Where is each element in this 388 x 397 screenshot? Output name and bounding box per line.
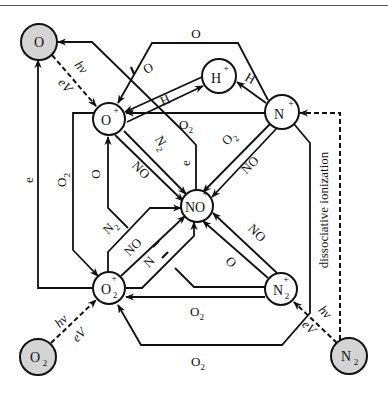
edge-np-op-o: [118, 43, 268, 103]
svg-text:2: 2: [113, 290, 118, 300]
node-o-plus: O +: [93, 103, 125, 135]
crossing-tick: [131, 67, 134, 74]
node-o: O: [21, 24, 57, 60]
svg-text:O: O: [101, 113, 111, 128]
node-n2-plus: N 2 +: [265, 273, 297, 305]
svg-text:2: 2: [285, 291, 290, 301]
node-h-plus: H +: [202, 59, 236, 93]
reaction-network-diagram: O O H H O2 N2 NO e O2 NO e O2 O N2 NO N …: [0, 0, 388, 397]
label-e-nop: e: [178, 160, 193, 166]
svg-text:+: +: [111, 273, 117, 284]
label-no-o2p-nop: NO: [121, 235, 145, 259]
label-ev-n2: eV: [299, 317, 321, 339]
label-no-np-nop: NO: [238, 153, 262, 177]
svg-text:O2: O2: [191, 354, 205, 372]
svg-text:2: 2: [354, 357, 359, 367]
label-o2-op-o2p: O2: [54, 173, 72, 187]
label-o2-np-o2p-bottom: O2: [191, 354, 205, 372]
label-o-hp: O: [141, 59, 156, 77]
label-o-o2p-op: O: [88, 169, 103, 178]
label-o2-np-nop: O2: [219, 128, 242, 151]
label-o2-np-op: O2: [179, 117, 193, 135]
svg-text:O: O: [34, 35, 44, 50]
svg-text:O: O: [30, 350, 40, 365]
label-ev-o2: eV: [69, 323, 91, 345]
svg-text:N: N: [341, 349, 351, 364]
svg-text:+: +: [223, 63, 229, 74]
svg-text:O2: O2: [179, 117, 193, 135]
edge-o2p-nop-n: [126, 222, 194, 288]
node-n2: N 2: [331, 338, 367, 374]
edge-n2p-nop-no: [213, 213, 277, 273]
label-e-o2p-o: e: [21, 177, 36, 183]
edge-op-o2p-o2: [73, 113, 98, 276]
label-o-n2p-nop: O: [223, 253, 240, 270]
edge-o2p-op-o: [108, 137, 128, 228]
edge-o-op-hv: [52, 55, 96, 106]
label-o2-n2p-o2p: O2: [190, 304, 204, 322]
node-o2-plus: O 2 +: [93, 272, 125, 304]
svg-text:+: +: [283, 274, 289, 285]
label-no-op-nop: NO: [129, 158, 153, 182]
svg-text:O: O: [101, 282, 111, 297]
label-hv-n2: hν: [316, 302, 335, 321]
edge-n2p-nop-o-path: [175, 268, 266, 287]
svg-text:2: 2: [43, 358, 48, 368]
svg-text:O2: O2: [190, 304, 204, 322]
svg-text:NO: NO: [185, 200, 205, 215]
label-no-n2p-nop: NO: [245, 221, 269, 245]
svg-text:N2: N2: [149, 133, 172, 154]
label-hv-o: hν: [72, 58, 92, 77]
svg-text:O2: O2: [54, 173, 72, 187]
svg-text:+: +: [113, 105, 119, 116]
edge-np-nop-o2: [203, 124, 270, 192]
svg-text:+: +: [202, 188, 208, 199]
label-dissociative-ionization: dissociative ionization: [316, 151, 331, 268]
label-o-top: O: [191, 26, 200, 41]
svg-text:+: +: [288, 98, 294, 109]
svg-text:O2: O2: [219, 128, 242, 151]
label-ev-o: eV: [55, 75, 77, 97]
node-n-plus: N +: [265, 95, 299, 129]
svg-text:H: H: [211, 71, 221, 86]
edge-np-o2p-o2: [118, 124, 310, 345]
crossing-tick: [162, 252, 168, 258]
node-o2: O 2: [20, 339, 56, 375]
label-hv-o2: hν: [51, 311, 70, 330]
svg-text:N: N: [273, 283, 283, 298]
label-n2-op-nop: N2: [149, 133, 172, 154]
svg-text:N: N: [274, 107, 284, 122]
